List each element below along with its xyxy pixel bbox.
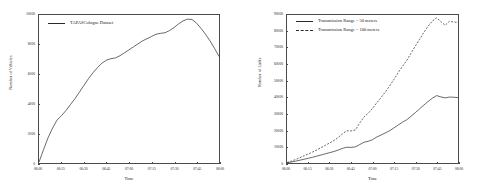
x-tick-label: 07:45 [193,167,201,171]
y-tick-label: 8000 [0,42,35,46]
legend-label: Transmission Range = 100 meters [318,28,379,33]
y-tick-mark [38,14,40,15]
x-tick-mark [61,162,62,164]
y-tick-mark [38,104,40,105]
figure-container: TAPASCologne Dataset Number of Vehicles … [0,0,478,192]
x-tick-label: 08:00 [455,167,463,171]
y-tick-label: 20000 [239,129,283,133]
plot-area-vehicles [38,14,220,164]
legend-key-icon [296,21,313,22]
legend-item: TAPASCologne Dataset [48,19,113,28]
vehicles-curve-svg [39,15,219,163]
y-tick-label: 10000 [239,145,283,149]
y-tick-mark [286,47,288,48]
x-tick-label: 06:00 [282,167,290,171]
y-tick-label: 10000 [0,12,35,16]
x-tick-mark [308,162,309,164]
y-tick-label: 40000 [239,95,283,99]
y-tick-mark [286,114,288,115]
x-tick-mark [175,162,176,164]
y-tick-mark [286,97,288,98]
x-tick-label: 06:15 [57,167,65,171]
x-tick-mark [106,162,107,164]
series-line-range-50 [287,96,458,163]
x-tick-label: 07:00 [368,167,376,171]
series-line-tapascologne [39,19,219,162]
x-tick-label: 07:00 [125,167,133,171]
links-curve-svg [287,15,458,163]
x-tick-mark [373,162,374,164]
x-axis-title-links: Time [286,176,459,181]
y-tick-label: 90000 [239,12,283,16]
y-tick-label: 80000 [239,29,283,33]
x-tick-label: 06:45 [102,167,110,171]
legend-label: Transmission Range = 50 meters [318,19,377,24]
y-tick-mark [286,131,288,132]
chart-panel-links: Transmission Range = 50 meters Transmiss… [239,0,478,192]
x-tick-mark [329,162,330,164]
x-tick-mark [152,162,153,164]
legend-item: Transmission Range = 50 meters [296,17,379,26]
y-tick-label: 70000 [239,45,283,49]
x-tick-mark [394,162,395,164]
y-tick-mark [38,134,40,135]
y-tick-mark [38,74,40,75]
y-tick-mark [286,81,288,82]
x-tick-label: 06:30 [79,167,87,171]
x-tick-mark [84,162,85,164]
x-tick-label: 08:00 [216,167,224,171]
x-tick-label: 07:45 [433,167,441,171]
x-tick-label: 07:30 [170,167,178,171]
x-tick-label: 06:45 [347,167,355,171]
y-tick-mark [38,44,40,45]
y-tick-mark [286,14,288,15]
y-tick-label: 30000 [239,112,283,116]
x-tick-mark [459,162,460,164]
y-tick-mark [38,164,40,165]
y-tick-mark [286,64,288,65]
x-tick-label: 07:15 [390,167,398,171]
x-tick-label: 07:30 [412,167,420,171]
plot-area-links [286,14,459,164]
x-tick-mark [351,162,352,164]
x-tick-mark [220,162,221,164]
legend-vehicles: TAPASCologne Dataset [48,19,113,28]
x-axis-title-vehicles: Time [38,176,220,181]
x-tick-label: 06:00 [34,167,42,171]
series-line-range-100 [287,18,458,163]
x-tick-mark [437,162,438,164]
y-tick-label: 6000 [0,72,35,76]
x-tick-label: 06:15 [304,167,312,171]
x-tick-mark [197,162,198,164]
y-tick-mark [286,147,288,148]
y-tick-mark [286,31,288,32]
y-tick-label: 0 [0,162,35,166]
y-tick-label: 0 [239,162,283,166]
legend-item: Transmission Range = 100 meters [296,26,379,35]
legend-key-icon [48,23,65,24]
x-tick-label: 07:15 [148,167,156,171]
legend-key-icon [296,30,313,31]
y-axis-title-links: Number of Links [257,43,262,103]
chart-panel-vehicles: TAPASCologne Dataset Number of Vehicles … [0,0,239,192]
y-tick-label: 60000 [239,62,283,66]
x-tick-mark [286,162,287,164]
legend-label: TAPASCologne Dataset [70,21,113,26]
y-tick-label: 50000 [239,79,283,83]
x-tick-mark [38,162,39,164]
legend-links: Transmission Range = 50 meters Transmiss… [296,17,379,35]
y-tick-mark [286,164,288,165]
y-tick-label: 4000 [0,102,35,106]
x-tick-mark [416,162,417,164]
x-tick-mark [129,162,130,164]
y-tick-label: 2000 [0,132,35,136]
x-tick-label: 06:30 [325,167,333,171]
